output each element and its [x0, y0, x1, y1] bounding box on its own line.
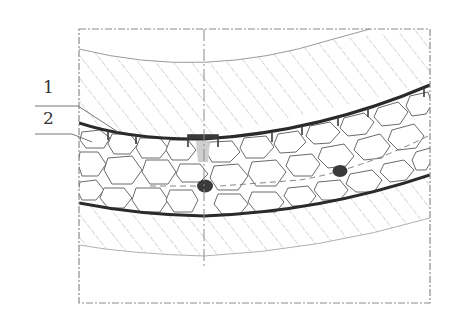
anchor-point-2-marker	[333, 165, 348, 177]
label-2: 2	[43, 108, 54, 128]
center-grout	[196, 141, 210, 162]
cross-section-diagram: 1 2	[0, 0, 456, 330]
upper-rock-mass	[79, 29, 430, 139]
anchor-point-1-marker	[197, 180, 213, 193]
label-1: 1	[43, 77, 54, 97]
